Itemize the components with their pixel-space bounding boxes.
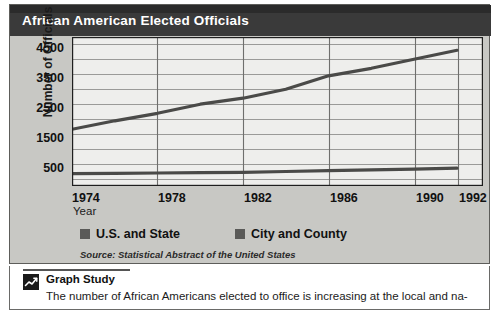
graph-study-box: Graph Study The number of African Americ… (9, 266, 490, 310)
page-title: African American Elected Officials (22, 13, 249, 29)
legend-label-us-and-state: U.S. and State (96, 227, 180, 241)
legend-item-us-and-state: U.S. and State (80, 227, 180, 241)
chart-figure: African American Elected Officials Numbe… (9, 4, 490, 264)
graph-study-heading: Graph Study (46, 273, 115, 285)
x-tick-1990: 1990 (416, 191, 444, 205)
plot-area (72, 37, 483, 186)
legend-swatch-icon (80, 229, 90, 239)
legend-swatch-icon (235, 229, 245, 239)
x-tick-1992: 1992 (459, 191, 487, 205)
y-axis-ticks: 4500 3500 2500 1500 500 (10, 37, 68, 187)
legend-label-city-and-county: City and County (251, 227, 347, 241)
line-graph-icon (23, 274, 39, 290)
figure-top-bar (10, 5, 491, 13)
x-tick-1974: 1974 (72, 191, 100, 205)
x-axis-ticks: 1974 1978 1982 1986 1990 1992 (72, 191, 492, 207)
graph-study-text: The number of African Americans elected … (46, 289, 494, 303)
legend-item-city-and-county: City and County (235, 227, 347, 241)
graph-study-divider (23, 269, 130, 271)
y-tick-2500: 2500 (36, 101, 64, 115)
y-tick-1500: 1500 (36, 131, 64, 145)
x-tick-1978: 1978 (158, 191, 186, 205)
x-tick-1986: 1986 (330, 191, 358, 205)
page-root: African American Elected Officials Numbe… (0, 0, 499, 311)
x-tick-1982: 1982 (244, 191, 272, 205)
y-tick-3500: 3500 (36, 71, 64, 85)
chart-svg (72, 37, 483, 186)
x-axis-label: Year (73, 205, 96, 217)
source-note: Source: Statistical Abstract of the Unit… (80, 249, 296, 260)
y-tick-4500: 4500 (36, 41, 64, 55)
y-tick-500: 500 (43, 161, 64, 175)
